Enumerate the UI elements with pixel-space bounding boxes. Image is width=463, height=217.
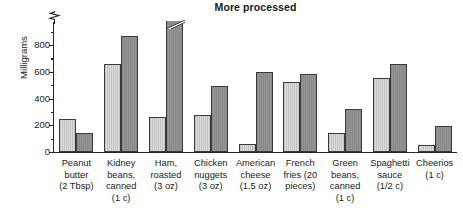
bar-dark xyxy=(435,126,452,152)
bar-dark xyxy=(166,21,183,152)
x-axis-label: Green beans, canned (1 c) xyxy=(323,158,368,204)
bar-light xyxy=(104,64,121,152)
y-axis-label: Milligrams xyxy=(18,8,29,108)
chart-title: More processed xyxy=(0,1,463,13)
bar-light xyxy=(194,115,211,152)
bar-light xyxy=(283,82,300,152)
bar-dark xyxy=(76,133,93,152)
bar-group xyxy=(278,22,323,152)
y-tick-label: 800 xyxy=(34,40,50,50)
y-tick-label: 0 xyxy=(45,147,50,157)
bar-group xyxy=(54,22,99,152)
bar-group xyxy=(367,22,412,152)
x-axis-label: Spaghetti sauce (1/2 c) xyxy=(367,158,412,204)
bar-light xyxy=(239,144,256,152)
x-axis-label: Kidney beans, canned (1 c) xyxy=(99,158,144,204)
x-axis-label: Chicken nuggets (3 oz) xyxy=(188,158,233,204)
bar-break-icon xyxy=(166,20,185,29)
bar-light xyxy=(328,133,345,152)
x-axis-line xyxy=(53,152,457,153)
bar-light xyxy=(373,78,390,152)
x-axis-label: French fries (20 pieces) xyxy=(278,158,323,204)
bar-dark xyxy=(300,74,317,152)
bar-group xyxy=(188,22,233,152)
bar-group xyxy=(144,22,189,152)
bar-dark xyxy=(256,72,273,152)
bar-dark xyxy=(121,36,138,152)
bar-dark xyxy=(345,109,362,152)
y-tick-label: 400 xyxy=(34,94,50,104)
bar-dark xyxy=(211,86,228,152)
x-axis-label: Peanut butter (2 Tbsp) xyxy=(54,158,99,204)
bar-group xyxy=(233,22,278,152)
bar-light xyxy=(149,117,166,152)
plot-area: 0200400600800 xyxy=(54,22,457,152)
y-tick-label: 200 xyxy=(34,121,50,131)
bar-dark xyxy=(390,64,407,152)
bar-light xyxy=(59,119,76,152)
bar-group xyxy=(99,22,144,152)
x-axis-label: Ham, roasted (3 oz) xyxy=(144,158,189,204)
x-axis-label: American cheese (1.5 oz) xyxy=(233,158,278,204)
bar-light xyxy=(418,145,435,152)
bar-group xyxy=(323,22,368,152)
x-axis-labels: Peanut butter (2 Tbsp)Kidney beans, cann… xyxy=(54,158,457,204)
bar-groups xyxy=(54,22,457,152)
x-axis-label: Cheerios (1 c) xyxy=(412,158,457,204)
bar-group xyxy=(412,22,457,152)
y-tick-label: 600 xyxy=(34,67,50,77)
bar-chart: More processed Milligrams 0200400600800 … xyxy=(0,0,463,217)
